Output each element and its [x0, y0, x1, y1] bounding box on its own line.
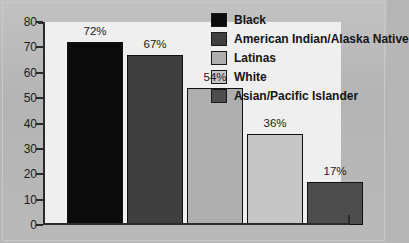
bar-value-label: 72%: [67, 26, 123, 38]
y-axis-tick-label: 30: [0, 143, 37, 155]
y-axis-tick-label: 80: [0, 16, 37, 28]
bar-value-label: 36%: [247, 118, 303, 130]
x-axis-end-tick: [348, 215, 350, 225]
y-axis-tick: [36, 21, 43, 23]
bar[interactable]: [307, 182, 363, 225]
y-axis-tick-label: 60: [0, 67, 37, 79]
y-axis-tick-label: 10: [0, 194, 37, 206]
y-axis-tick: [36, 148, 43, 150]
y-axis-tick-label: 20: [0, 168, 37, 180]
bar[interactable]: [67, 42, 123, 225]
legend-item-label: Asian/Pacific Islander: [234, 90, 358, 102]
legend-item[interactable]: Black: [211, 11, 387, 29]
chart-legend: BlackAmerican Indian/Alaska NativeLatina…: [211, 11, 387, 106]
x-axis-line: [43, 223, 350, 225]
legend-item[interactable]: American Indian/Alaska Native: [211, 30, 387, 48]
bar[interactable]: [187, 88, 243, 225]
legend-item[interactable]: Latinas: [211, 49, 387, 67]
y-axis-tick-label: 70: [0, 41, 37, 53]
y-axis-tick: [36, 173, 43, 175]
y-axis-tick: [36, 224, 43, 226]
bar[interactable]: [247, 134, 303, 225]
y-axis-tick: [36, 72, 43, 74]
y-axis-tick-label: 50: [0, 92, 37, 104]
legend-swatch-icon: [211, 32, 227, 46]
legend-swatch-icon: [211, 13, 227, 27]
y-axis-tick: [36, 97, 43, 99]
y-axis-tick: [36, 46, 43, 48]
legend-swatch-icon: [211, 51, 227, 65]
bar[interactable]: [127, 55, 183, 225]
y-axis-tick: [36, 199, 43, 201]
bar-value-label: 54%: [187, 72, 243, 84]
y-axis-line: [43, 22, 45, 225]
legend-item-label: Latinas: [234, 52, 276, 64]
legend-item[interactable]: Asian/Pacific Islander: [211, 87, 387, 105]
bar-value-label: 17%: [307, 166, 363, 178]
y-axis-tick: [36, 123, 43, 125]
legend-item-label: Black: [234, 14, 266, 26]
bar-value-label: 67%: [127, 39, 183, 51]
y-axis-tick-label: 40: [0, 118, 37, 130]
legend-item-label: American Indian/Alaska Native: [234, 33, 409, 45]
legend-swatch-icon: [211, 89, 227, 103]
y-axis-tick-label: 0: [0, 219, 37, 231]
